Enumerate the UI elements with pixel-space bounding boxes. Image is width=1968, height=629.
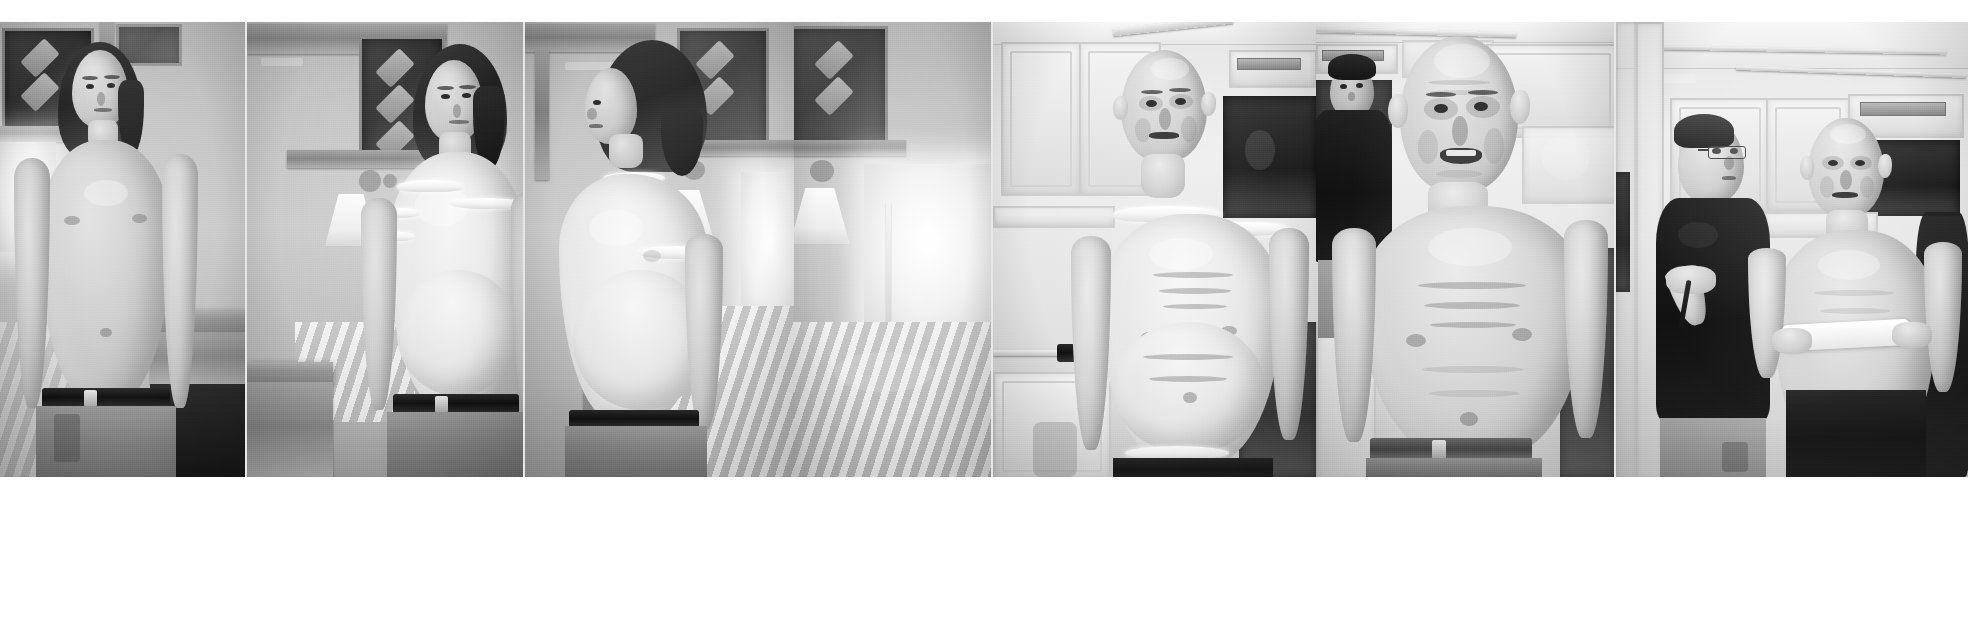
dark-shorts [1786,390,1926,477]
panel-5-full-old-age-makeup-kitchen[interactable] [993,22,1316,477]
bald-head [1400,36,1518,192]
bedspread [794,322,991,477]
lamp-shade [794,188,850,244]
page-blank-area [0,477,1968,629]
belt-buckle [84,390,97,407]
dark-shorts [1113,458,1273,477]
bare-torso [40,140,170,402]
belt-buckle [435,396,448,413]
panel-7-makeup-artist-final-touches[interactable] [1616,22,1968,477]
artist-hair [1674,114,1734,148]
eyeglasses-temple [1698,149,1709,151]
trousers [1366,458,1542,477]
cargo-pants [387,412,523,477]
cargo-pants [565,426,707,477]
aged-belly [1113,322,1265,454]
panel-1-actor-bare-torso-front[interactable] [0,22,245,477]
belt [393,394,519,414]
left-ear [1388,94,1408,128]
head-profile [585,68,637,144]
right-ear [1201,92,1216,116]
eyeglasses-icon [1708,146,1746,159]
trailer-window [741,172,794,322]
character-right-hand [1892,322,1932,348]
teeth [1446,150,1476,156]
panel-6-finished-character-closer[interactable] [1316,22,1615,477]
bald-head [1121,50,1207,162]
right-ear [1510,90,1530,124]
screenshot-root [0,0,1968,629]
belt [1370,438,1532,460]
appliance-seam-neckline [397,180,463,192]
vent-grille [1860,102,1946,116]
panel-3-appliance-profile-view[interactable] [525,22,794,477]
left-ear [1113,96,1128,120]
vent-grille [1237,58,1301,70]
belly-padding [397,270,519,396]
artist-hand [1666,266,1716,294]
artist-shorts [1660,418,1766,477]
counter-edge [993,206,1115,228]
aged-torso [1362,206,1586,458]
dark-recess [1223,96,1316,218]
photo-contact-strip [0,22,1968,477]
panel-2-chest-appliance-applied[interactable] [247,22,523,477]
bald-head [1808,118,1884,218]
trailer-interior-background [794,22,991,477]
belt-buckle [1432,440,1446,459]
belt [42,388,170,408]
character-left-hand [1772,328,1812,354]
panel-4-trailer-window-gap[interactable] [794,22,991,477]
trailer-window [864,164,991,332]
drawer-front [150,332,245,384]
kitchen-cabinet[interactable] [1001,42,1081,196]
